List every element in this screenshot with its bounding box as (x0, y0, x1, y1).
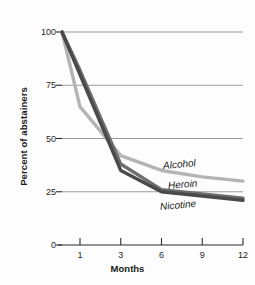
series-line-alcohol (62, 32, 243, 181)
chart-svg (62, 32, 243, 245)
y-tick-label: 25 (26, 187, 56, 197)
y-tick-label: 50 (26, 134, 56, 144)
y-tick-label: 75 (26, 80, 56, 90)
x-tick-label: 1 (68, 250, 92, 260)
x-tick-label: 12 (231, 250, 255, 260)
y-tick-label: 0 (26, 240, 56, 250)
chart-container: Percent of abstainers 0255075100 136912 … (0, 0, 255, 285)
x-tick-label: 3 (109, 250, 133, 260)
plot-area (62, 32, 243, 245)
x-tick-label: 6 (150, 250, 174, 260)
y-tick-label: 100 (26, 27, 56, 37)
x-tick-label: 9 (190, 250, 214, 260)
x-axis-title: Months (0, 263, 255, 274)
y-axis-tick-labels: 0255075100 (24, 0, 56, 285)
